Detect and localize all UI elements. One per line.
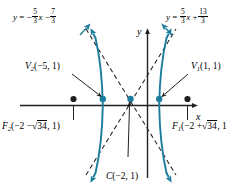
asymptote-equation-right: y = 53x +133 — [166, 8, 208, 24]
asymptote-right-const-sign: + — [193, 12, 198, 22]
focus-left-open: (−2 − — [11, 121, 32, 131]
sqrt-icon: √34 — [202, 121, 217, 131]
asymptote-left-const-sign: − — [45, 12, 50, 22]
focus-right-point — [184, 96, 190, 102]
hyperbola-left-arrow-top — [93, 34, 95, 39]
vertex-left-label: V2(−5, 1) — [25, 62, 60, 72]
asymptote-right-const-fraction: 133 — [198, 8, 208, 24]
vertex-left-coords: (−5, 1) — [34, 61, 60, 71]
vertex-left-leader — [72, 74, 98, 94]
asymptote-left-const-fraction: 73 — [50, 8, 56, 24]
focus-left-label: F2(−2 −√34, 1) — [2, 122, 60, 132]
graph-canvas — [0, 0, 247, 189]
focus-right-label: F1(−2 +√34, 1 — [172, 122, 227, 132]
asymptote-left-const-denominator: 3 — [50, 17, 56, 25]
focus-left-close: , 1) — [47, 121, 60, 131]
center-leader — [128, 106, 130, 157]
center-label: C(−2, 1) — [106, 172, 138, 182]
hyperbola-right-arrow-top — [167, 34, 169, 39]
y-axis-label: y — [137, 27, 141, 37]
asymptote-right-const-denominator: 3 — [198, 17, 208, 25]
center-point — [127, 96, 133, 102]
asymptote-right-slope-fraction: 53 — [180, 8, 186, 24]
x-axis-label: x — [196, 112, 200, 122]
sqrt-icon: √34 — [32, 121, 47, 131]
hyperbola-figure: y = −53x −73 y = 53x +133 V2(−5, 1) V1(1… — [0, 0, 247, 189]
focus-right-close: , 1 — [217, 121, 227, 131]
vertex-right-label: V1(1, 1) — [191, 62, 221, 72]
vertex-right-leader — [165, 74, 188, 94]
asymptote-equation-left: y = −53x −73 — [13, 8, 56, 24]
focus-right-open: (−2 + — [181, 121, 202, 131]
vertex-left-point — [100, 96, 106, 102]
hyperbola-left-arrow-bottom — [93, 173, 95, 178]
hyperbola-right-arrow-bottom — [167, 173, 169, 178]
vertex-right-coords: (1, 1) — [200, 61, 221, 71]
vertex-right-point — [156, 96, 162, 102]
focus-left-radicand: 34 — [37, 120, 48, 131]
focus-right-radicand: 34 — [207, 120, 218, 131]
focus-left-point — [70, 96, 76, 102]
center-coords: (−2, 1) — [112, 171, 138, 181]
asymptote-left-slope-sign: − — [27, 12, 32, 22]
asymptote-right-slope-denominator: 3 — [180, 17, 186, 25]
asymptote-left-pointer — [80, 28, 87, 35]
